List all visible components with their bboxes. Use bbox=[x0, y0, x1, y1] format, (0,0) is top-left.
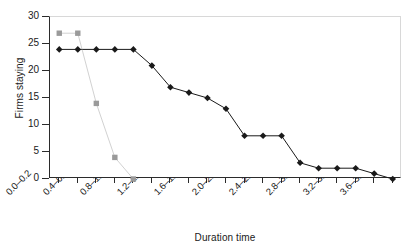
y-tick-label: 15 bbox=[5, 92, 39, 102]
series-dark-series bbox=[56, 46, 396, 182]
y-tick-label-wrap: 10 bbox=[0, 119, 39, 129]
y-tick-label-wrap: 30 bbox=[0, 11, 39, 21]
x-tick-label-wrap: 3.6–3.8 bbox=[392, 186, 393, 187]
data-point-marker bbox=[260, 133, 267, 140]
data-point-marker bbox=[93, 46, 100, 53]
data-point-marker bbox=[94, 101, 99, 106]
plot-area bbox=[49, 16, 401, 178]
data-point-marker bbox=[389, 176, 396, 183]
data-point-marker bbox=[334, 165, 341, 172]
y-tick-15 bbox=[42, 97, 49, 98]
y-tick-label: 25 bbox=[5, 38, 39, 48]
data-point-marker bbox=[112, 46, 119, 53]
y-tick-10 bbox=[42, 124, 49, 125]
x-axis-title: Duration time bbox=[49, 232, 401, 243]
y-tick-label-wrap: 20 bbox=[0, 65, 39, 75]
data-point-marker bbox=[297, 160, 304, 167]
y-tick-label-wrap: 5 bbox=[0, 146, 39, 156]
y-axis-title: Firms staying bbox=[14, 8, 28, 168]
y-tick-label: 5 bbox=[5, 146, 39, 156]
data-point-marker bbox=[131, 176, 136, 181]
data-point-marker bbox=[223, 106, 230, 113]
y-tick-label: 10 bbox=[5, 119, 39, 129]
y-tick-20 bbox=[42, 70, 49, 71]
data-point-marker bbox=[112, 155, 117, 160]
data-point-marker bbox=[241, 133, 248, 140]
y-tick-25 bbox=[42, 43, 49, 44]
y-tick-label: 20 bbox=[5, 65, 39, 75]
data-point-marker bbox=[315, 165, 322, 172]
y-tick-label-wrap: 25 bbox=[0, 38, 39, 48]
y-tick-30 bbox=[42, 16, 49, 17]
series-canvas bbox=[50, 17, 402, 179]
data-point-marker bbox=[57, 31, 62, 36]
series-line bbox=[59, 33, 133, 179]
y-tick-label-wrap: 15 bbox=[0, 92, 39, 102]
y-tick-5 bbox=[42, 151, 49, 152]
data-point-marker bbox=[74, 46, 81, 53]
series-line bbox=[59, 49, 392, 179]
chart-figure: Firms staying 051015202530 0.0–0.20.4–0.… bbox=[0, 0, 414, 252]
data-point-marker bbox=[56, 46, 63, 53]
data-point-marker bbox=[204, 95, 211, 102]
data-point-marker bbox=[186, 89, 193, 96]
data-point-marker bbox=[371, 170, 378, 177]
data-point-marker bbox=[278, 133, 285, 140]
data-point-marker bbox=[352, 165, 359, 172]
series-gray-series bbox=[57, 31, 137, 182]
y-tick-0 bbox=[42, 178, 49, 179]
data-point-marker bbox=[75, 31, 80, 36]
y-tick-label: 30 bbox=[5, 11, 39, 21]
